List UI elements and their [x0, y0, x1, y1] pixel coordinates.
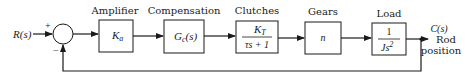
- plus-sign: +: [45, 20, 51, 31]
- amplifier-title: Amplifier: [91, 5, 139, 16]
- summing-junction: [53, 24, 73, 44]
- compensation-title: Compensation: [148, 5, 221, 16]
- clutches-denominator: τs + 1: [245, 39, 269, 50]
- block-diagram: R(s) + − Amplifier Ka Compensation Gc(s)…: [0, 0, 473, 76]
- load-numerator: 1: [387, 26, 392, 37]
- gears-title: Gears: [308, 6, 338, 17]
- load-title: Load: [376, 8, 402, 19]
- compensation-transfer: Gc(s): [174, 30, 197, 44]
- minus-sign: −: [53, 45, 59, 56]
- output-description-line1: Rod: [436, 34, 457, 45]
- output-description-line2: position: [421, 45, 462, 56]
- clutches-title: Clutches: [235, 5, 279, 16]
- input-label: R(s): [12, 28, 32, 41]
- gears-ratio: n: [321, 32, 326, 43]
